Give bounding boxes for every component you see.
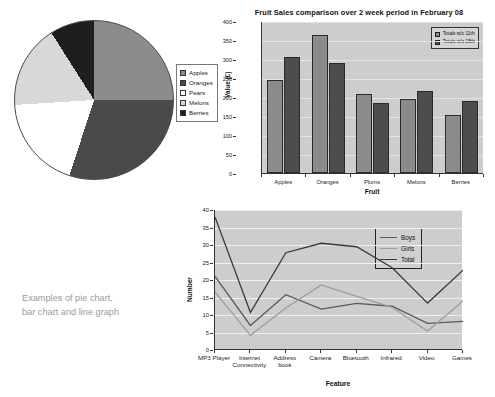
line-x-tick [320, 350, 321, 353]
bar-chart-plot-area: Totals w/c 11thTotals w/c 18th [261, 22, 483, 174]
bar [400, 99, 416, 173]
pie-legend-label: Melons [189, 98, 209, 108]
bar-y-tick-label: 400 [223, 19, 232, 25]
bar-legend-item: Totals w/c 11th [435, 30, 475, 38]
caption-line-1: Examples of pie chart, [22, 291, 182, 305]
pie-legend-item: Oranges [180, 78, 213, 88]
line-x-tick-label: Addressbook [273, 354, 296, 368]
pie-legend-item: Melons [180, 98, 213, 108]
caption-line-2: bar chart and line graph [22, 305, 182, 319]
bar-x-tick-label: Plums [364, 179, 380, 185]
line-chart-plot-area: BoysGirlsTotal [214, 210, 462, 350]
bar-chart-x-axis-label: Fruit [261, 188, 483, 195]
line-x-tick [285, 350, 286, 353]
pie-legend-label: Apples [189, 68, 208, 78]
line-y-tick-label: 20 [203, 277, 209, 283]
line-x-tick-label: MP3 Player [198, 354, 230, 361]
pie-legend-swatch [180, 90, 186, 96]
figure-caption: Examples of pie chart, bar chart and lin… [22, 291, 182, 319]
bar-y-tick-label: 300 [223, 57, 232, 63]
bar-chart: Fruit Sales comparison over 2 week perio… [228, 8, 490, 198]
line-chart: Number BoysGirlsTotal Feature 0510152025… [186, 202, 491, 394]
bar-x-tick-label: Melons [407, 179, 426, 185]
bar-x-tick-label: Apples [274, 179, 292, 185]
line-chart-y-axis-label: Number [186, 277, 193, 302]
bar-legend-label: Totals w/c 18th [443, 38, 475, 46]
bar-y-tick-label: 50 [226, 152, 232, 158]
bar-chart-title: Fruit Sales comparison over 2 week perio… [228, 8, 490, 17]
bar-gridline [262, 22, 483, 23]
line-y-tick-label: 40 [203, 207, 209, 213]
pie-legend-swatch [180, 110, 186, 116]
line-x-tick-label: Video [419, 354, 435, 361]
pie-legend-label: Oranges [189, 78, 213, 88]
line-y-tick-label: 0 [206, 347, 209, 353]
line-x-tick [462, 350, 463, 353]
line-x-tick [356, 350, 357, 353]
bar-group [356, 94, 389, 173]
bar-gridline [262, 41, 483, 42]
pie-legend-swatch [180, 70, 186, 76]
bar-x-tick [261, 174, 262, 177]
pie-legend-item: Berries [180, 108, 213, 118]
pie-legend-label: Pears [189, 88, 205, 98]
line-x-tick [249, 350, 250, 353]
bar-x-tick-label: Berries [452, 179, 470, 185]
bar-group [445, 101, 478, 173]
bar [284, 57, 300, 173]
pie-legend-item: Pears [180, 88, 213, 98]
bar-x-tick [483, 174, 484, 177]
line-x-tick-label: InternetConnectivity [233, 354, 267, 368]
bar-legend-swatch [435, 32, 440, 37]
line-y-tick-label: 35 [203, 225, 209, 231]
line-x-tick [391, 350, 392, 353]
bar-y-tick-label: 0 [229, 171, 232, 177]
line-y-tick-label: 30 [203, 242, 209, 248]
line-y-tick-label: 5 [206, 330, 209, 336]
line-y-tick-label: 10 [203, 312, 209, 318]
bar-x-tick [439, 174, 440, 177]
bar-y-tick-label: 150 [223, 114, 232, 120]
bar-x-tick [394, 174, 395, 177]
pie-chart: ApplesOrangesPearsMelonsBerries [8, 16, 223, 191]
pie-legend-swatch [180, 100, 186, 106]
bar-y-tick-label: 250 [223, 76, 232, 82]
pie-legend-swatch [180, 80, 186, 86]
line-x-tick-label: Games [452, 354, 472, 361]
bar [373, 103, 389, 173]
line-x-tick [214, 350, 215, 353]
bar-x-tick-label: Oranges [316, 179, 338, 185]
bar-x-tick [350, 174, 351, 177]
bar [312, 35, 328, 173]
pie-slices [14, 20, 174, 180]
bar-group [400, 91, 433, 173]
line-series-group [215, 210, 463, 350]
pie-legend-label: Berries [189, 108, 209, 118]
line-y-tick-label: 15 [203, 295, 209, 301]
bar-y-tick-label: 100 [223, 133, 232, 139]
bar [356, 94, 372, 173]
line-chart-x-axis-label: Feature [214, 380, 462, 387]
line-y-tick-label: 25 [203, 260, 209, 266]
bar-group [312, 35, 345, 173]
line-x-tick [427, 350, 428, 353]
bar-group [267, 57, 300, 173]
bar-y-tick-label: 350 [223, 38, 232, 44]
bar-y-tick-label: 200 [223, 95, 232, 101]
bar [462, 101, 478, 173]
bar-chart-legend: Totals w/c 11thTotals w/c 18th [431, 27, 479, 49]
line-x-tick-label: Infrared [380, 354, 401, 361]
bar [445, 115, 461, 173]
bar [417, 91, 433, 173]
bar [329, 63, 345, 173]
pie-chart-legend: ApplesOrangesPearsMelonsBerries [176, 64, 218, 122]
bar-legend-label: Totals w/c 11th [443, 30, 475, 38]
pie-legend-item: Apples [180, 68, 213, 78]
line-x-tick-label: Camera [309, 354, 331, 361]
line-x-tick-label: Bluetooth [343, 354, 369, 361]
bar-x-tick [305, 174, 306, 177]
line-series [215, 217, 463, 313]
bar-legend-item: Totals w/c 18th [435, 38, 475, 46]
bar [267, 80, 283, 173]
